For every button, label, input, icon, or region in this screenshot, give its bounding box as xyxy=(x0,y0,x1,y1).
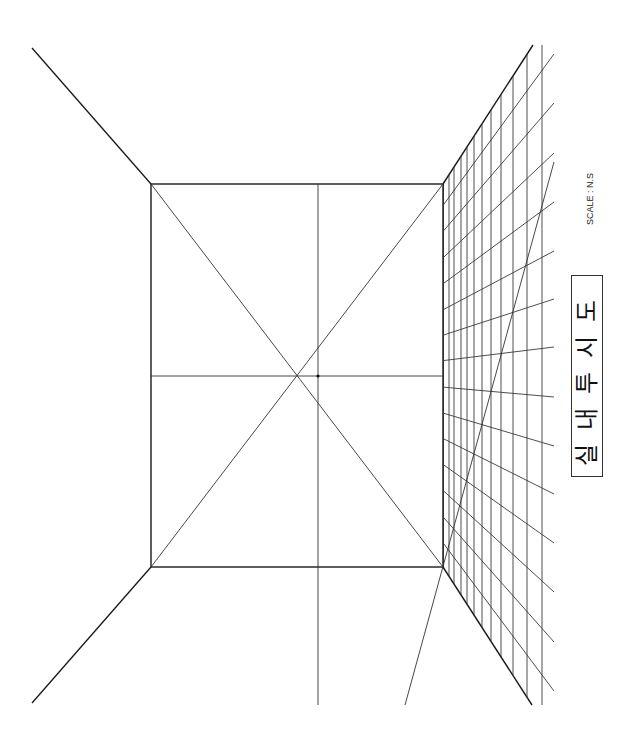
wall-grid-receding-line xyxy=(318,376,554,446)
floor-right-edge xyxy=(443,567,532,705)
ceiling-left-edge xyxy=(32,48,151,184)
perspective-drawing xyxy=(0,0,636,748)
right-wall-grid xyxy=(318,0,554,748)
room-edges xyxy=(32,45,533,705)
floor-left-edge xyxy=(32,567,151,703)
vanishing-point xyxy=(316,374,319,377)
wall-grid-receding-line xyxy=(318,299,554,376)
wall-grid-receding-line xyxy=(318,347,554,376)
wall-grid-receding-line xyxy=(318,376,554,543)
wall-grid-receding-line xyxy=(318,251,554,376)
wall-grid-receding-line xyxy=(318,376,554,691)
back-wall-guides xyxy=(151,184,443,705)
wall-grid-receding-line xyxy=(318,153,554,376)
wall-grid-receding-line xyxy=(318,376,554,592)
wall-grid-receding-line xyxy=(318,103,554,376)
wall-grid-receding-line xyxy=(318,202,554,376)
wall-grid-receding-line xyxy=(318,54,554,376)
wall-grid-receding-line xyxy=(318,376,554,397)
ceiling-right-edge xyxy=(443,45,533,184)
scale-label: SCALE : N.S xyxy=(585,173,595,225)
drawing-title: 실내투시도 xyxy=(575,286,599,466)
wall-grid-receding-line xyxy=(318,376,554,642)
title-box: 실내투시도 xyxy=(571,275,603,477)
